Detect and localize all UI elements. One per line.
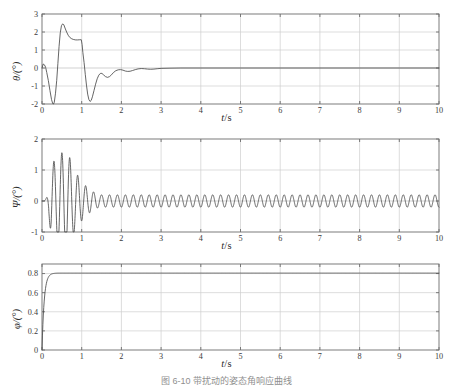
phi-x-axis-title: t/s — [0, 358, 453, 369]
svg-text:0.6: 0.6 — [28, 289, 38, 298]
svg-text:0.4: 0.4 — [28, 308, 38, 317]
svg-text:1: 1 — [34, 166, 38, 175]
svg-text:2: 2 — [34, 28, 38, 37]
svg-text:0.8: 0.8 — [28, 269, 38, 278]
svg-text:0: 0 — [34, 346, 38, 355]
svg-text:0: 0 — [34, 197, 38, 206]
svg-text:0: 0 — [34, 64, 38, 73]
phi-subplot: 01234567891000.20.40.60.8 φ/(°) t/s — [0, 258, 453, 388]
svg-text:-1: -1 — [31, 82, 38, 91]
svg-text:-1: -1 — [31, 228, 38, 237]
theta-subplot: 012345678910-2-10123 θ/(°) t/s — [0, 0, 453, 130]
theta-x-axis-title: t/s — [0, 112, 453, 123]
svg-text:0.2: 0.2 — [28, 327, 38, 336]
phi-y-axis-title: φ/(°) — [11, 309, 22, 329]
psi-x-axis-title: t/s — [0, 240, 453, 251]
theta-y-axis-title: θ/(°) — [11, 62, 22, 81]
psi-y-axis-title: Ψ/(°) — [11, 186, 22, 208]
figure-caption: 图 6-10 带扰动的姿态角响应曲线 — [0, 374, 453, 387]
svg-text:3: 3 — [34, 10, 38, 19]
svg-text:-2: -2 — [31, 100, 38, 109]
theta-plot-area: 012345678910-2-10123 — [0, 0, 453, 130]
svg-text:1: 1 — [34, 46, 38, 55]
svg-text:2: 2 — [34, 135, 38, 144]
psi-subplot: 012345678910-1012 Ψ/(°) t/s — [0, 130, 453, 260]
